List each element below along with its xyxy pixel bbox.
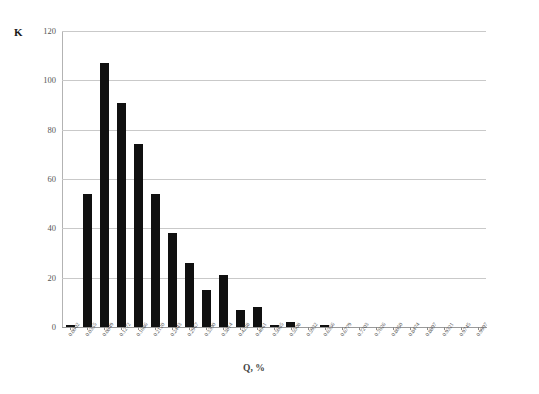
x-tick-label: 0.9997 [475, 321, 489, 337]
x-tick-label: 0.0355 [84, 321, 98, 337]
x-tick-label: 0.4661 [254, 321, 268, 337]
x-tick-label: 0.2967 [186, 321, 200, 337]
x-tick-label: 0.8050 [390, 321, 404, 337]
x-tick-label: 0.1686 [135, 321, 149, 337]
x-tick-label: 0.0849 [101, 321, 115, 337]
x-tick-label: 0.7626 [373, 321, 387, 337]
x-tick-label: 0.4238 [237, 321, 251, 337]
x-tick-label: 0.2443 [169, 321, 183, 337]
x-tick-label: 0.6779 [339, 321, 353, 337]
x-tick-label: 0.9745 [458, 321, 472, 337]
bar-chart: K 020406080100120 0.00020.03550.08490.12… [0, 0, 539, 394]
x-tick-label: 0.3814 [220, 321, 234, 337]
x-tick-label: 0.7203 [356, 321, 370, 337]
x-tick-label: 0.2120 [152, 321, 166, 337]
x-tick-label: 0.8897 [424, 321, 438, 337]
x-tick-label: 0.1272 [118, 321, 132, 337]
x-tick-label: 0.5932 [305, 321, 319, 337]
x-axis-tick-labels: 0.00020.03550.08490.12720.16860.21200.24… [0, 0, 539, 394]
x-tick-label: 0.8474 [407, 321, 421, 337]
x-tick-label: 0.3390 [203, 321, 217, 337]
x-tick-label: 0.9321 [441, 321, 455, 337]
x-tick-label: 0.5085 [271, 321, 285, 337]
x-tick-label: 0.5508 [288, 321, 302, 337]
x-tick-label: 0.6356 [322, 321, 336, 337]
x-tick-label: 0.0002 [67, 321, 81, 337]
x-axis-title: Q, % [243, 363, 265, 373]
